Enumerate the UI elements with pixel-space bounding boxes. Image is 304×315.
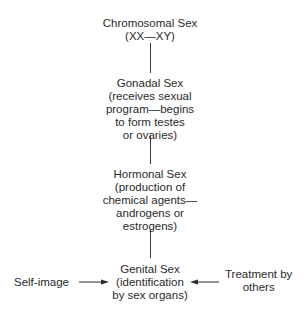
node-detail: chemical agents— (80, 194, 220, 207)
connector-chromosomal-to-gonadal (150, 43, 151, 73)
node-detail: androgens or (80, 207, 220, 220)
node-detail: by sex organs) (95, 289, 205, 302)
arrow-left-icon (189, 278, 221, 286)
node-title: Genital Sex (95, 263, 205, 276)
node-detail: (production of (80, 181, 220, 194)
node-title: Gonadal Sex (80, 77, 220, 90)
side-input-label: Treatment by (225, 268, 292, 281)
node-title: Hormonal Sex (80, 168, 220, 181)
node-chromosomal-sex: Chromosomal Sex (XX—XY) (90, 17, 210, 43)
node-detail: (receives sexual (80, 90, 220, 103)
node-gonadal-sex: Gonadal Sex (receives sexual program—beg… (80, 77, 220, 142)
connector-gonadal-to-hormonal (150, 135, 151, 164)
side-input-label: others (225, 281, 292, 294)
node-detail: (XX—XY) (90, 30, 210, 43)
node-detail: program—begins (80, 103, 220, 116)
arrow-right-icon (79, 278, 111, 286)
node-title: Chromosomal Sex (90, 17, 210, 30)
side-input-treatment-by-others: Treatment by others (225, 268, 292, 294)
node-hormonal-sex: Hormonal Sex (production of chemical age… (80, 168, 220, 233)
node-detail: to form testes (80, 116, 220, 129)
side-input-label: Self-image (14, 276, 69, 288)
connector-hormonal-to-genital (150, 230, 151, 258)
side-input-self-image: Self-image (14, 276, 69, 289)
